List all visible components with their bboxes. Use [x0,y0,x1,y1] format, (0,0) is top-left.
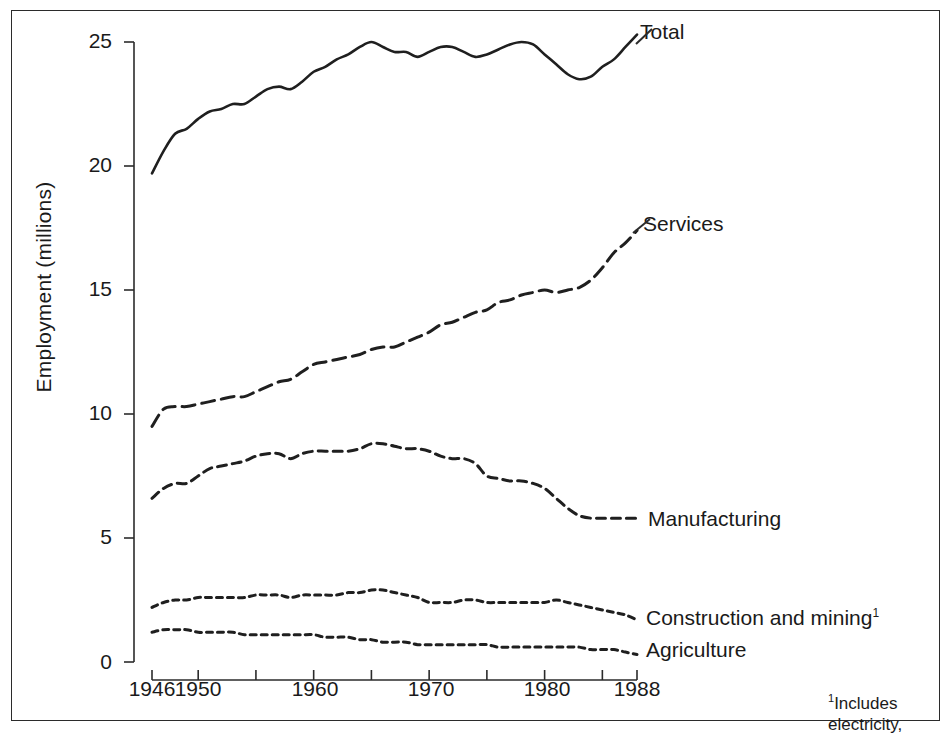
leader-line-total [636,29,652,44]
chart-plot-area: Employment (millions) 0 5 10 15 20 25 19… [0,0,951,739]
x-axis-ticks [152,670,637,680]
series-line-manufacturing [152,443,637,518]
chart-canvas [0,0,951,739]
series-lines [152,35,637,655]
series-line-services [152,230,637,426]
series-line-total [152,35,637,174]
label-leader-lines [633,29,652,233]
series-line-construction-and-mining [152,590,637,620]
axis-lines [124,42,637,680]
y-axis-ticks [124,42,134,662]
leader-line-services [633,219,650,233]
series-line-agriculture [152,630,637,655]
